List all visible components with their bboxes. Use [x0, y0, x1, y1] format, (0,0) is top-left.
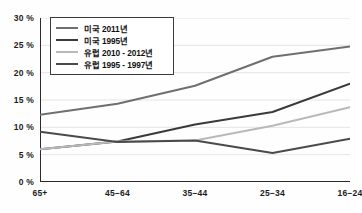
chart-legend: 미국 2011년미국 1995년유럽 2010 - 2012년유럽 1995 -… — [50, 17, 174, 75]
y-tick-label: 0 % — [19, 177, 34, 187]
x-tick-label: 16−24 — [338, 188, 362, 198]
legend-label: 미국 1995년 — [84, 34, 128, 46]
legend-swatch-icon — [56, 63, 78, 65]
x-tick-label: 35−44 — [183, 188, 208, 198]
y-axis-tick-labels: 0 %5 %10 %15 %20 %25 %30 % — [0, 18, 37, 182]
y-tick-label: 5 % — [19, 150, 34, 160]
legend-item-1[interactable]: 미국 1995년 — [56, 34, 168, 46]
y-tick-label: 25 % — [14, 40, 34, 50]
legend-swatch-icon — [56, 27, 78, 29]
y-tick-label: 15 % — [14, 95, 34, 105]
legend-label: 유럽 2010 - 2012년 — [84, 46, 153, 58]
x-tick-label: 25−34 — [260, 188, 285, 198]
series-line-2 — [40, 107, 350, 149]
y-tick-label: 20 % — [14, 68, 34, 78]
x-tick-label: 65+ — [32, 188, 47, 198]
y-tick-label: 10 % — [14, 122, 34, 132]
legend-label: 미국 2011년 — [84, 22, 128, 34]
legend-item-3[interactable]: 유럽 1995 - 1997년 — [56, 58, 168, 70]
series-line-3 — [40, 132, 350, 153]
x-tick-label: 45−64 — [105, 188, 130, 198]
legend-item-0[interactable]: 미국 2011년 — [56, 22, 168, 34]
series-line-1 — [40, 84, 350, 150]
legend-item-2[interactable]: 유럽 2010 - 2012년 — [56, 46, 168, 58]
legend-label: 유럽 1995 - 1997년 — [84, 58, 153, 70]
legend-swatch-icon — [56, 51, 78, 53]
y-tick-label: 30 % — [14, 13, 34, 23]
x-axis-tick-labels: 65+45−6435−4425−3416−24 — [40, 186, 350, 206]
legend-swatch-icon — [56, 39, 78, 41]
